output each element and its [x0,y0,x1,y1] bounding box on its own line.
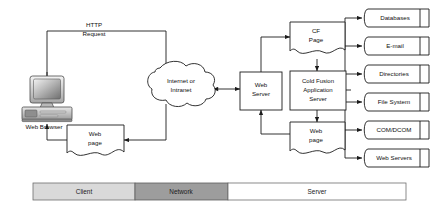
resource-node-1: E-mail [364,37,429,55]
web-browser-caption: Web Browser [25,123,62,130]
resource-label-4: COM/DCOM [376,126,411,133]
client-web-page-label-line1: Web [89,130,102,137]
app-server-label-line1: Cold Fusion [302,78,334,84]
cloud-label-line1: Internet or [167,77,195,84]
http-request-label-line2: Request [82,30,105,37]
client-web-page-label-line2: page [88,139,102,146]
zone-band-server: Server [228,183,406,200]
resource-node-5: Web Servers [364,149,429,167]
cloud-label-line2: Intranet [171,86,192,93]
resource-label-5: Web Servers [376,154,412,161]
app-server-label-line2: Application [303,87,332,93]
server-web-page-label-line2: page [309,136,323,143]
resource-node-0: Databases [364,9,429,27]
http-request-label-line1: HTTP [86,21,102,28]
resource-label-3: File System [378,98,410,105]
desktop-computer-icon [22,72,72,122]
web-server-label-line1: Web [255,81,268,88]
connector-resource-bus [345,18,362,158]
zone-band-network-label: Network [169,188,193,195]
connector-resultpage-to-webserver [261,110,290,134]
server-web-page-label-line1: Web [310,127,323,134]
client-web-page-node: Web page [67,125,124,155]
server-web-page-node: Web page [290,122,345,153]
resource-label-0: Databases [380,14,410,21]
cf-page-label-line1: CF [312,27,320,34]
diagram-canvas: Internet or Intranet Web page Web Browse… [0,0,439,213]
resource-label-1: E-mail [386,42,404,49]
resource-node-2: Directories [364,65,429,83]
resource-label-2: Directories [379,70,409,77]
cf-page-node: CF Page [290,22,345,53]
architecture-diagram: Internet or Intranet Web page Web Browse… [0,0,439,213]
zone-band-client-label: Client [76,188,93,195]
zone-band-client: Client [33,183,135,200]
resource-node-4: COM/DCOM [364,121,429,139]
cloud-icon: Internet or Intranet [148,61,215,106]
cf-page-label-line2: Page [309,36,324,43]
connector-webserver-to-cfpage [261,37,290,72]
zone-band-network: Network [135,183,228,200]
connector-cloud-to-client-page [124,104,166,140]
web-server-label-line2: Server [252,90,270,97]
resource-node-3: File System [364,93,429,111]
coldfusion-application-server-node: Cold Fusion Application Server [290,71,346,110]
web-server-node: Web Server [240,72,282,110]
zone-band-server-label: Server [308,188,328,195]
app-server-label-line3: Server [309,96,327,102]
